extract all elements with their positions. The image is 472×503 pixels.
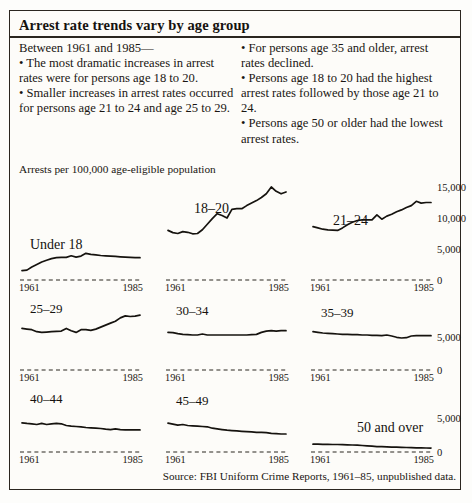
summary-right-line-1: • Persons age 18 to 20 had the highest a… (241, 71, 453, 116)
summary-column-left: Between 1961 and 1985— • The most dramat… (19, 41, 237, 116)
page-title: Arrest rate trends vary by age group (19, 17, 250, 34)
summary-column-right: • For persons age 35 and older, arrest r… (241, 41, 453, 147)
summary-right-line-0: • For persons age 35 and older, arrest r… (241, 41, 453, 71)
summary-left-line-1: • The most dramatic increases in arrest … (19, 56, 237, 86)
figure-page: Arrest rate trends vary by age group Bet… (0, 0, 472, 503)
title-divider (10, 36, 460, 38)
summary-left-line-2: • Smaller increases in arrest rates occu… (19, 86, 237, 116)
axis-caption: Arrests per 100,000 age-eligible populat… (19, 163, 216, 175)
summary-right-line-2: • Persons age 50 or older had the lowest… (241, 116, 453, 146)
summary-left-line-0: Between 1961 and 1985— (19, 41, 237, 56)
source-note: Source: FBI Uniform Crime Reports, 1961–… (163, 470, 456, 482)
